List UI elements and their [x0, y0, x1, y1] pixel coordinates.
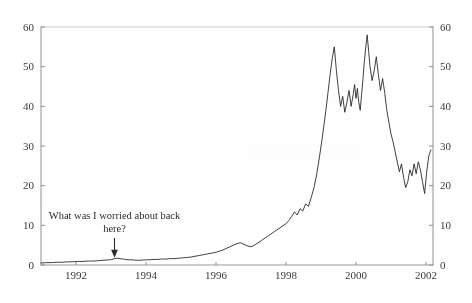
right-tick-label: 60 — [440, 21, 452, 33]
year-tick-label: 1994 — [135, 269, 158, 281]
right-tick-label: 0 — [440, 259, 446, 271]
left-tick-label: 40 — [23, 100, 35, 112]
chart-canvas: 0102030405060 0102030405060 199219941996… — [0, 0, 472, 303]
left-tick-label: 50 — [23, 60, 35, 72]
left-tick-label: 20 — [23, 179, 35, 191]
left-tick-label: 0 — [29, 259, 35, 271]
right-tick-label: 50 — [440, 60, 452, 72]
left-tick-label: 10 — [23, 219, 35, 231]
scanned-chart-figure: 0102030405060 0102030405060 199219941996… — [0, 0, 472, 303]
left-tick-label: 60 — [23, 21, 35, 33]
left-tick-label: 30 — [23, 140, 35, 152]
year-tick-label: 1996 — [205, 269, 228, 281]
right-tick-label: 40 — [440, 100, 452, 112]
right-tick-label: 30 — [440, 140, 452, 152]
year-tick-label: 1998 — [275, 269, 298, 281]
right-tick-label: 20 — [440, 179, 452, 191]
annotation-line-1: What was I worried about back — [49, 210, 181, 221]
year-tick-label: 2002 — [415, 269, 437, 281]
right-tick-label: 10 — [440, 219, 452, 231]
annotation-line-2: here? — [103, 223, 126, 234]
year-tick-label: 2000 — [345, 269, 368, 281]
year-tick-label: 1992 — [65, 269, 87, 281]
